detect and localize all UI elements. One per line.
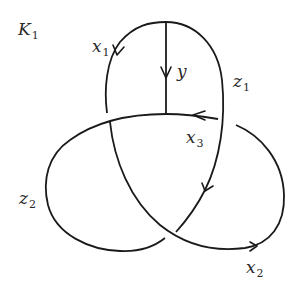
label-y: y <box>177 63 187 80</box>
strand-top-arc <box>106 22 223 232</box>
knot-diagram <box>0 0 308 295</box>
arrow-x1-icon <box>113 45 124 55</box>
knot-title: K1 <box>18 21 39 41</box>
label-z1: z1 <box>233 73 250 93</box>
label-x2: x2 <box>246 259 264 279</box>
label-z2: z2 <box>19 190 36 210</box>
label-x3: x3 <box>186 129 204 149</box>
label-x1: x1 <box>92 38 110 58</box>
